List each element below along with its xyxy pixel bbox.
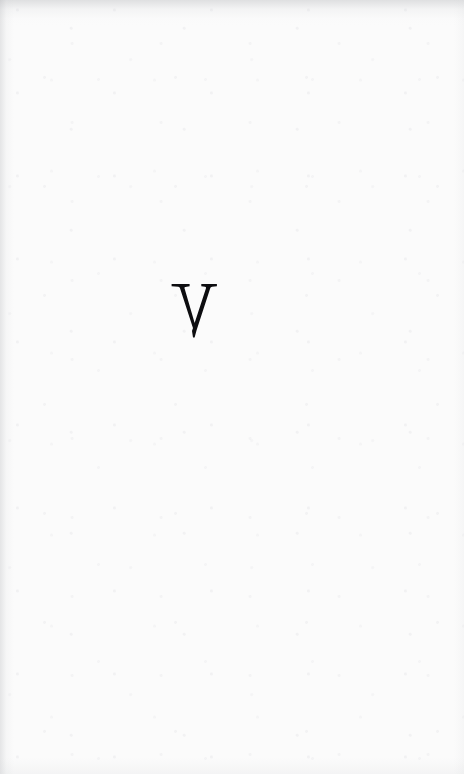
roman-numeral-v-glyph [171,283,223,339]
bottom-edge-shadow [0,758,464,774]
scanned-page [0,0,464,774]
right-edge-shadow [454,0,464,774]
top-edge-shadow [0,0,464,26]
part-divider-numeral [0,278,394,344]
left-gutter-shadow [0,0,14,774]
